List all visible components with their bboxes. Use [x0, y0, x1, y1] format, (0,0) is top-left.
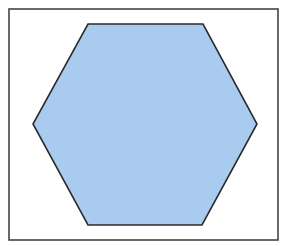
diagram-canvas: [0, 0, 283, 246]
hexagon-figure: [0, 0, 283, 246]
